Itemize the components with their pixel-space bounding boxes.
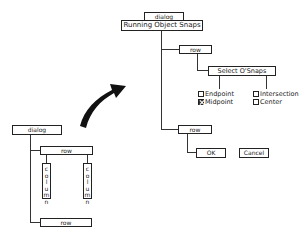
column-letter: n [45, 199, 49, 206]
cancel-button[interactable]: Cancel [239, 148, 269, 158]
checkbox-icon [253, 99, 259, 105]
midpoint-checkbox[interactable]: Midpoint [198, 98, 233, 106]
connector-line [219, 76, 220, 89]
checkbox-label: Center [260, 98, 282, 106]
connector-line [161, 31, 162, 129]
connector-line [87, 155, 88, 163]
connector-line [266, 76, 267, 89]
connector-line [30, 150, 40, 151]
column-letter: n [86, 199, 90, 206]
left-row-bottom-node: row [40, 218, 92, 227]
left-row-top-node: row [40, 146, 93, 155]
checkbox-label: Endpoint [205, 90, 234, 98]
connector-line [161, 49, 179, 50]
endpoint-checkbox[interactable]: Endpoint [198, 90, 234, 98]
connector-line [161, 129, 178, 130]
connector-line [197, 54, 198, 70]
curved-arrow-icon [74, 80, 134, 140]
select-osnaps-node: Select O'Snaps [208, 66, 276, 76]
intersection-checkbox[interactable]: Intersection [253, 90, 299, 98]
left-column-node-2: c o l u m n [83, 163, 92, 199]
right-row2-node: row [178, 125, 212, 134]
left-dialog-node: dialog [12, 125, 62, 135]
checkbox-icon [198, 91, 204, 97]
checked-checkbox-icon [198, 99, 204, 105]
checkbox-icon [253, 91, 259, 97]
connector-line [187, 152, 196, 153]
center-checkbox[interactable]: Center [253, 98, 282, 106]
connector-line [30, 222, 40, 223]
ok-button[interactable]: OK [196, 148, 226, 158]
connector-line [46, 155, 47, 163]
dialog-title-node: Running Object Snaps [121, 20, 203, 31]
checkbox-label: Midpoint [205, 98, 233, 106]
connector-line [187, 134, 188, 152]
connector-line [197, 70, 208, 71]
left-column-node-1: c o l u m n [42, 163, 51, 199]
checkbox-label: Intersection [260, 90, 299, 98]
connector-line [30, 135, 31, 223]
right-row1-node: row [179, 45, 212, 54]
